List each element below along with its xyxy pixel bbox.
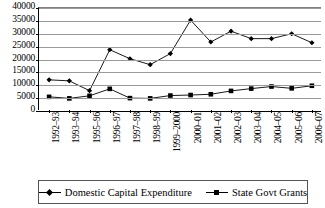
- series-1: [47, 18, 315, 94]
- square-marker-icon: [249, 86, 254, 91]
- y-axis-tick: [36, 21, 39, 22]
- x-axis-tick-label: 2000–01: [194, 112, 204, 143]
- diamond-marker-icon: [46, 188, 53, 195]
- square-marker-icon: [188, 93, 193, 98]
- x-axis-tick-label: 1993–94: [72, 112, 82, 143]
- plot-area: [38, 7, 321, 110]
- x-axis-tick-label: 1992–93: [52, 112, 62, 143]
- gridline: [39, 85, 321, 86]
- y-axis-tick-label: 0: [30, 105, 35, 115]
- legend-label: Domestic Capital Expenditure: [65, 187, 192, 198]
- square-marker-icon: [289, 86, 294, 91]
- gridline: [39, 8, 321, 9]
- legend-item-2[interactable]: State Govt Grants: [206, 187, 307, 198]
- gridline: [39, 98, 321, 99]
- x-axis-tick-label: 1999–2000: [173, 112, 183, 152]
- diamond-marker-icon: [249, 36, 254, 41]
- y-axis-tick: [36, 98, 39, 99]
- gridline: [39, 72, 321, 73]
- y-axis-tick-label: 25000: [12, 41, 35, 51]
- line-chart: 0500010000150002000025000300003500040000…: [0, 0, 325, 208]
- y-axis-tick: [36, 8, 39, 9]
- x-axis-tick-label: 1997–98: [133, 112, 143, 143]
- x-axis-tick-label: 1995–96: [93, 112, 103, 143]
- y-axis-tick: [36, 72, 39, 73]
- diamond-marker-icon: [87, 88, 92, 93]
- diamond-marker-icon: [47, 77, 52, 82]
- y-axis-tick: [36, 47, 39, 48]
- diamond-marker-icon: [168, 51, 173, 56]
- diamond-marker-icon: [67, 78, 72, 83]
- x-axis-labels: 1992–931993–941995–961996–971997–981998–…: [38, 112, 321, 174]
- gridline: [39, 60, 321, 61]
- diamond-marker-icon: [107, 47, 112, 52]
- y-axis-tick-label: 20000: [12, 54, 35, 64]
- y-axis-labels: 0500010000150002000025000300003500040000: [0, 0, 37, 118]
- y-axis-tick: [36, 60, 39, 61]
- y-axis-tick-label: 40000: [12, 2, 35, 12]
- y-axis-tick: [36, 34, 39, 35]
- gridline: [39, 47, 321, 48]
- diamond-marker-icon: [269, 36, 274, 41]
- y-axis-tick-label: 35000: [12, 15, 35, 25]
- x-axis-tick-label: 1996–97: [113, 112, 123, 143]
- diamond-marker-icon: [309, 40, 314, 45]
- y-axis-tick-label: 5000: [17, 92, 35, 102]
- x-axis-tick-label: 2001–02: [214, 112, 224, 143]
- x-axis-tick-label: 2005–06: [295, 112, 305, 143]
- chart-legend: Domestic Capital ExpenditureState Govt G…: [38, 180, 308, 204]
- x-axis-tick-label: 1998–99: [153, 112, 163, 143]
- legend-line-sample: [39, 192, 61, 193]
- plot-wrapper: 0500010000150002000025000300003500040000: [0, 0, 325, 118]
- legend-item-1[interactable]: Domestic Capital Expenditure: [39, 187, 192, 198]
- square-marker-icon: [214, 190, 219, 195]
- y-axis-tick-label: 10000: [12, 80, 35, 90]
- x-axis-tick-label: 2006–07: [315, 112, 325, 143]
- y-axis-tick-label: 30000: [12, 28, 35, 38]
- diamond-marker-icon: [148, 62, 153, 67]
- x-axis-tick-label: 2002–03: [234, 112, 244, 143]
- gridline: [39, 34, 321, 35]
- series-line: [49, 20, 312, 91]
- x-axis-tick-label: 2003–04: [254, 112, 264, 143]
- square-marker-icon: [209, 92, 214, 97]
- y-axis-tick: [36, 85, 39, 86]
- square-marker-icon: [107, 87, 112, 92]
- y-axis-tick-label: 15000: [12, 67, 35, 77]
- x-axis-tick-label: 2004–05: [274, 112, 284, 143]
- gridline: [39, 21, 321, 22]
- legend-label: State Govt Grants: [232, 187, 307, 198]
- legend-line-sample: [206, 192, 228, 193]
- square-marker-icon: [229, 89, 234, 94]
